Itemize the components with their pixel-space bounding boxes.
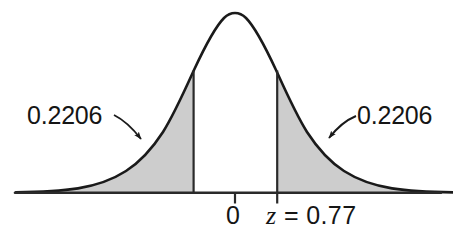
z-symbol: z [266,201,277,230]
z-equals-value: = 0.77 [277,201,357,229]
right-tail-probability-label: 0.2206 [357,103,432,128]
right-tail-shaded-region [276,70,453,192]
z-value-label: z = 0.77 [266,203,356,229]
left-tail-probability-label: 0.2206 [27,103,102,128]
normal-curve-figure: 0.2206 0.2206 0 z = 0.77 [0,0,453,237]
axis-center-label: 0 [226,203,240,228]
right-callout-arrow [329,116,356,138]
left-callout-arrow [114,115,141,139]
